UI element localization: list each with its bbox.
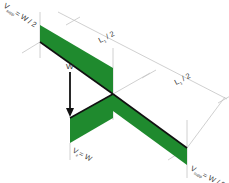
svg-text:L1 / 2: L1 / 2 <box>97 29 117 46</box>
svg-text:Vsupp= W / 2: Vsupp= W / 2 <box>189 164 227 183</box>
load-label: W <box>66 62 74 71</box>
dim-right-label: L1 / 2 <box>173 71 193 88</box>
svg-text:L1 / 2: L1 / 2 <box>173 71 193 88</box>
svg-text:Vz= W: Vz= W <box>71 146 95 165</box>
shear-force-diagram: W Vsupp= W / 2 L1 / 2 L1 / 2 Vz= W Vsupp… <box>0 0 229 183</box>
center-shear-label: Vz= W <box>71 146 95 165</box>
beam-axis-right <box>113 94 187 148</box>
shear-area-left <box>40 25 113 94</box>
diagram-edges <box>40 42 187 148</box>
support-right-label: Vsupp= W / 2 <box>189 164 227 183</box>
shear-area-center <box>70 94 113 143</box>
dim-left-label: L1 / 2 <box>97 29 117 46</box>
support-left-label: Vsupp= W / 2 <box>1 1 38 30</box>
load-arrow <box>66 72 74 117</box>
shear-area-right <box>113 94 187 165</box>
svg-text:Vsupp= W / 2: Vsupp= W / 2 <box>1 1 38 30</box>
